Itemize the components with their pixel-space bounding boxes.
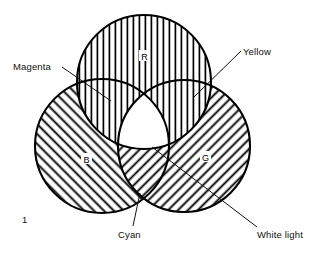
label-green: G — [202, 153, 209, 163]
annotation-yellow: Yellow — [243, 46, 271, 57]
annotation-white-light: White light — [257, 229, 303, 240]
annotation-cyan: Cyan — [118, 229, 141, 240]
figure-number: 1 — [22, 214, 27, 225]
venn-diagram: R B G Magenta Yellow Cyan White light 1 — [0, 0, 325, 256]
annotation-magenta: Magenta — [13, 61, 52, 72]
label-red: R — [141, 52, 148, 62]
label-blue: B — [83, 155, 89, 165]
figure-container: R B G Magenta Yellow Cyan White light 1 — [0, 0, 325, 256]
